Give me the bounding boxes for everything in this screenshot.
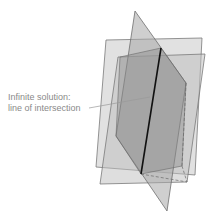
label-infinite-solution: Infinite solution: [8,92,71,103]
three-planes-diagram: Infinite solution: line of intersection [0,0,214,219]
label-line-of-intersection: line of intersection [8,103,81,114]
